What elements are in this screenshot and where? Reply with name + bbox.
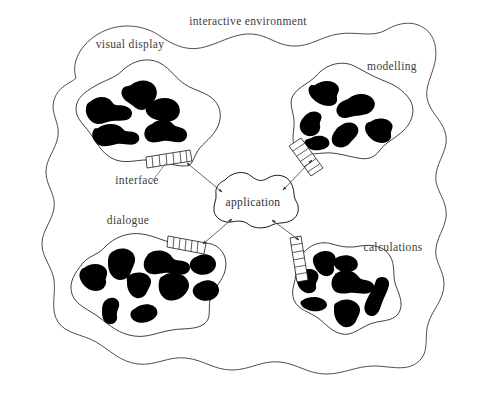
environment-label: interactive environment [189,15,307,27]
application-node[interactable]: application [214,173,299,228]
interactive-environment-diagram: interactive environment visual display [0,0,497,394]
modelling-label: modelling [367,60,417,73]
diagram-canvas: interactive environment visual display [0,0,497,394]
calculations-label: calculations [363,241,422,253]
blob-shape [102,298,119,324]
interface-label: interface [115,174,158,186]
dialogue-label: dialogue [107,214,149,227]
application-label: application [226,196,281,209]
visual-display-label: visual display [96,38,164,51]
